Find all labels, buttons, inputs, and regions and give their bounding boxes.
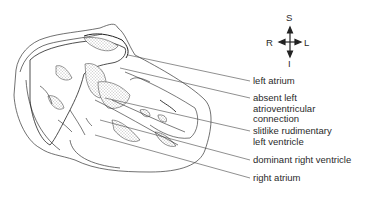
label-right-atrium: right atrium xyxy=(253,173,301,184)
label-slitlike-rudimentary-lv: slitlike rudimentary left ventricle xyxy=(253,126,332,147)
compass-right: R xyxy=(266,37,273,48)
compass-arrows xyxy=(279,27,301,57)
compass-superior: S xyxy=(286,12,292,23)
compass-left: L xyxy=(304,37,309,48)
label-absent-left-av-connection: absent left atrioventricular connection xyxy=(253,93,315,125)
label-left-atrium: left atrium xyxy=(253,76,295,87)
heart-diagram xyxy=(0,0,380,200)
stippled-tissue xyxy=(48,37,176,146)
compass-inferior: I xyxy=(288,58,291,69)
leader-lines xyxy=(95,55,250,178)
label-dominant-rv: dominant right ventricle xyxy=(253,155,351,166)
